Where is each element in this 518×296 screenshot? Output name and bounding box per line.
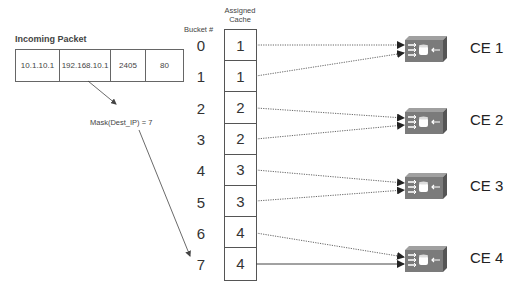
connector-lines [0,0,518,296]
packet-to-mask-arrow [88,81,116,104]
mask-to-bucket-arrow [139,130,190,256]
content-engine-icon [405,108,447,134]
ce-label-2: CE 2 [470,111,503,128]
ce-label-4: CE 4 [470,249,503,266]
content-engine-icon [405,173,447,199]
content-engine-icon [405,36,447,62]
content-engine-icon [405,246,447,272]
ce-label-3: CE 3 [470,177,503,194]
ce-label-1: CE 1 [470,39,503,56]
